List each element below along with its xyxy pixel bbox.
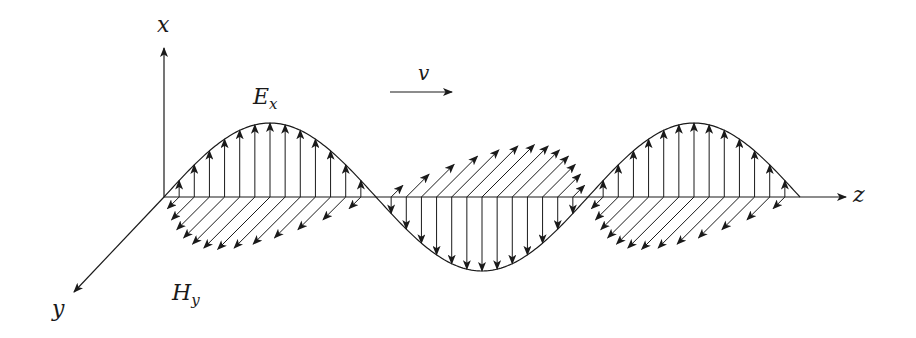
- h-field-vector: [193, 197, 240, 244]
- h-field-vector: [275, 197, 316, 238]
- magnetic-field-symbol: H: [171, 280, 192, 305]
- h-field-vector: [391, 185, 403, 197]
- h-field-vector: [527, 156, 568, 197]
- h-field-vector: [558, 174, 581, 197]
- h-field-vector: [204, 197, 255, 248]
- h-field-vector: [608, 197, 649, 238]
- magnetic-field-label: Hy: [171, 280, 200, 309]
- h-field-vector: [172, 197, 195, 220]
- h-field-vector: [234, 197, 285, 248]
- electric-field-label: Ex: [252, 84, 278, 113]
- h-field-vector: [601, 197, 634, 230]
- h-field-vector: [596, 197, 619, 220]
- h-field-vector: [617, 197, 664, 244]
- h-field-vector: [184, 197, 225, 238]
- electric-field-subscript: x: [269, 95, 278, 113]
- h-field-vector: [747, 197, 770, 220]
- magnetic-field-subscript: y: [190, 291, 200, 309]
- h-field-vector: [642, 197, 694, 249]
- h-field-vector: [452, 150, 499, 197]
- h-field-vector: [677, 197, 724, 244]
- h-field-vector: [699, 197, 740, 238]
- h-field-vector: [421, 164, 454, 197]
- h-field-vector: [573, 185, 585, 197]
- h-field-vector: [349, 197, 361, 209]
- h-field-vector: [168, 197, 180, 209]
- h-field-vector: [253, 197, 300, 244]
- h-field-vector: [298, 197, 331, 230]
- em-wave-diagram: x y z v Ex Hy: [0, 0, 916, 338]
- h-field-vector: [467, 146, 518, 197]
- h-field-vector: [218, 197, 270, 249]
- h-field-vector: [437, 156, 478, 197]
- h-field-vector: [658, 197, 709, 248]
- h-field-vector: [482, 145, 534, 197]
- y-axis-label: y: [51, 296, 65, 321]
- h-field-vector: [406, 174, 429, 197]
- x-axis-label: x: [157, 12, 170, 37]
- h-field-vector: [323, 197, 346, 220]
- z-axis-label: z: [852, 182, 865, 207]
- h-field-vector: [177, 197, 210, 230]
- labels: x y z v Ex Hy: [51, 12, 865, 321]
- h-field-vector: [497, 146, 548, 197]
- h-field-vector: [628, 197, 679, 248]
- h-field-vector: [773, 197, 785, 209]
- h-field-vector: [592, 197, 604, 209]
- electric-field-symbol: E: [252, 84, 269, 109]
- h-field-vector: [543, 164, 576, 197]
- h-field-vector: [722, 197, 755, 230]
- h-field-vector: [512, 150, 559, 197]
- velocity-label: v: [418, 61, 430, 85]
- y-axis: [74, 197, 164, 292]
